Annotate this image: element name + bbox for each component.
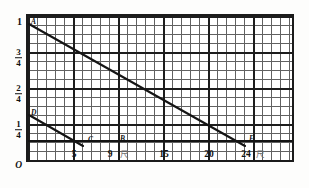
fraction-denominator: 4 (15, 95, 22, 104)
plot-area: A D C B E 5 9 15 20 24 尺 尺 (26, 14, 294, 162)
fraction-numerator: 1 (15, 120, 22, 129)
fraction-2-4: 2 4 (15, 84, 22, 103)
x-tick-9: 9 (108, 150, 113, 160)
fraction-3-4: 3 4 (15, 48, 22, 67)
y-tick-3-4: 3 4 (0, 48, 22, 68)
x-tick-15: 15 (159, 150, 169, 160)
x-tick-5: 5 (72, 150, 77, 160)
x-tick-24: 24 (241, 150, 251, 160)
y-tick-2-4: 2 4 (0, 84, 22, 104)
fraction-numerator: 2 (15, 84, 22, 93)
point-label-D: D (31, 109, 36, 117)
x-tick-20: 20 (204, 150, 214, 160)
fraction-numerator: 3 (15, 48, 22, 57)
fraction-denominator: 4 (15, 131, 22, 140)
x-axis-tick-strip: 5 9 15 20 24 尺 尺 (28, 142, 292, 160)
y-tick-1-4: 1 4 (0, 120, 22, 140)
fraction-denominator: 4 (15, 59, 22, 68)
y-tick-1: 1 (0, 17, 22, 27)
figure-root: 1 3 4 2 4 1 4 O (0, 0, 309, 188)
x-unit-mark-1: 尺 (120, 150, 129, 159)
point-label-A: A (31, 18, 36, 26)
x-unit-mark-2: 尺 (256, 150, 265, 159)
axis-origin-label: O (0, 161, 22, 171)
fraction-1-4: 1 4 (15, 120, 22, 139)
